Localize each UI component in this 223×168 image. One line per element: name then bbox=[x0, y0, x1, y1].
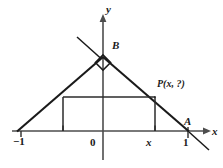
tick-label-x-right: 1 bbox=[183, 137, 189, 148]
y-axis bbox=[100, 14, 107, 160]
point-marker-p bbox=[154, 96, 156, 98]
x-axis-arrowhead bbox=[203, 128, 211, 135]
y-axis-arrowhead bbox=[100, 14, 107, 22]
tick-label-x-left: −1 bbox=[13, 136, 25, 147]
inscribed-rectangle bbox=[63, 97, 155, 131]
x-axis bbox=[12, 128, 211, 135]
point-label-b: B bbox=[112, 40, 119, 51]
point-label-p: P(x, ?) bbox=[157, 79, 185, 89]
origin-label: 0 bbox=[90, 137, 96, 148]
point-label-a: A bbox=[184, 116, 191, 127]
x-axis-label: x bbox=[212, 126, 218, 137]
figure-canvas bbox=[0, 0, 223, 168]
geometry-figure: y x 0 −1 x 1 A B P(x, ?) bbox=[0, 0, 223, 168]
y-axis-label: y bbox=[106, 4, 111, 15]
construction-extension-lines bbox=[77, 37, 209, 150]
tick-label-x-variable: x bbox=[146, 137, 152, 148]
